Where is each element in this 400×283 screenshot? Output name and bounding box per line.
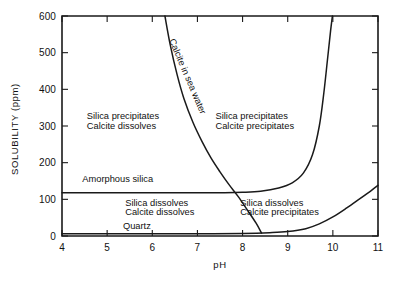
region-label: Quartz xyxy=(123,221,151,231)
y-tick-label: 100 xyxy=(39,194,56,205)
y-tick-label: 0 xyxy=(50,231,56,242)
y-tick-label: 200 xyxy=(39,157,56,168)
x-tick-label: 11 xyxy=(373,242,384,253)
y-tick-label: 500 xyxy=(39,47,56,58)
x-tick-label: 10 xyxy=(327,242,339,253)
chart-canvas: 0100200300400500600 4567891011 Silica pr… xyxy=(0,0,400,283)
region-label: Calcite dissolves xyxy=(125,207,195,217)
region-label: Amorphous silica xyxy=(82,174,154,184)
y-tick-label: 600 xyxy=(39,11,56,22)
x-tick-label: 5 xyxy=(104,242,110,253)
solubility-ph-chart: 0100200300400500600 4567891011 Silica pr… xyxy=(0,0,400,283)
x-tick-label: 7 xyxy=(195,242,201,253)
region-label: Silica precipitates xyxy=(215,111,288,121)
region-label: Calcite precipitates xyxy=(240,207,319,217)
region-label: Calcite precipitates xyxy=(215,121,294,131)
x-tick-label: 8 xyxy=(240,242,246,253)
x-tick-label: 4 xyxy=(59,242,65,253)
chart-background xyxy=(0,0,400,283)
region-label: Silica precipitates xyxy=(87,111,160,121)
region-label: Calcite dissolves xyxy=(87,121,157,131)
x-tick-label: 9 xyxy=(285,242,291,253)
y-tick-label: 400 xyxy=(39,84,56,95)
y-tick-label: 300 xyxy=(39,121,56,132)
y-axis-title: SOLUBILITY (ppm) xyxy=(9,83,20,175)
x-tick-label: 6 xyxy=(149,242,155,253)
x-axis-title: pH xyxy=(213,259,226,270)
